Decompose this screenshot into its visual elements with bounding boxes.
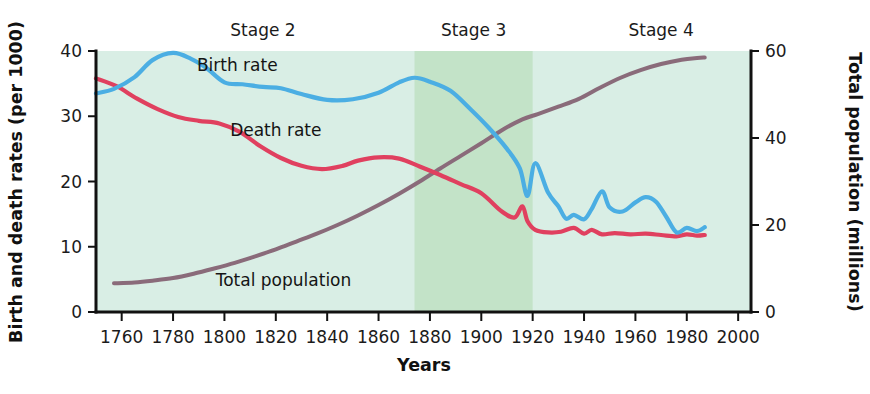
- x-1820-label: 1820: [254, 327, 297, 347]
- x-1800-label: 1800: [203, 327, 246, 347]
- y-right-60-label: 60: [765, 41, 787, 61]
- x-1980-label: 1980: [665, 327, 708, 347]
- y-left-10-label: 10: [60, 237, 82, 257]
- x-1920-label: 1920: [511, 327, 554, 347]
- x-1880-label: 1880: [408, 327, 451, 347]
- chart-canvas: 010203040 0204060 1760178018001820184018…: [0, 0, 870, 394]
- left-axis-ticks: 010203040: [60, 41, 96, 322]
- y-right-20-label: 20: [765, 215, 787, 235]
- y-right-0-label: 0: [765, 302, 776, 322]
- y-axis-title-right: Total population (millions): [845, 52, 865, 311]
- series-label-death-rate: Death rate: [230, 120, 321, 140]
- stage3-shaded-band: [415, 51, 533, 312]
- demographic-transition-chart: 010203040 0204060 1760178018001820184018…: [0, 0, 870, 394]
- x-1860-label: 1860: [357, 327, 400, 347]
- stage-label-stage-3: Stage 3: [441, 20, 506, 40]
- series-label-birth-rate: Birth rate: [197, 55, 278, 75]
- x-1940-label: 1940: [562, 327, 605, 347]
- x-1960-label: 1960: [614, 327, 657, 347]
- bottom-axis-ticks: 1760178018001820184018601880190019201940…: [100, 312, 760, 347]
- x-1900-label: 1900: [460, 327, 503, 347]
- y-left-40-label: 40: [60, 41, 82, 61]
- y-left-20-label: 20: [60, 172, 82, 192]
- series-label-total-population: Total population: [215, 270, 352, 290]
- y-axis-title-left: Birth and death rates (per 1000): [6, 21, 26, 343]
- x-1780-label: 1780: [151, 327, 194, 347]
- stage-label-stage-2: Stage 2: [230, 20, 295, 40]
- x-2000-label: 2000: [717, 327, 760, 347]
- right-axis-ticks: 0204060: [751, 41, 787, 322]
- x-1760-label: 1760: [100, 327, 143, 347]
- x-axis-title: Years: [396, 355, 451, 375]
- stage-labels-group: Stage 2Stage 3Stage 4: [230, 20, 693, 40]
- y-left-30-label: 30: [60, 106, 82, 126]
- x-1840-label: 1840: [306, 327, 349, 347]
- stage-label-stage-4: Stage 4: [628, 20, 693, 40]
- y-left-0-label: 0: [71, 302, 82, 322]
- y-right-40-label: 40: [765, 128, 787, 148]
